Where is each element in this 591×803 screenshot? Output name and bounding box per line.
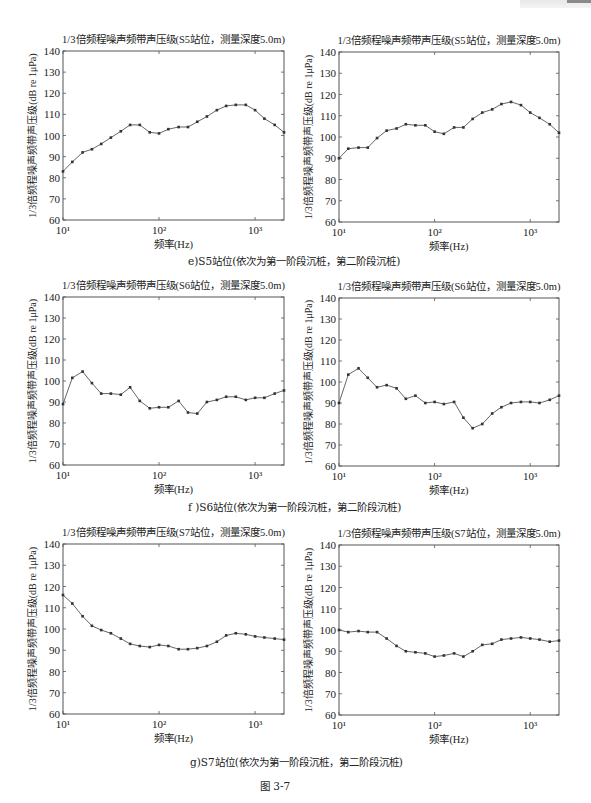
y-tick-label: 110 xyxy=(320,355,337,367)
plot-frame xyxy=(63,51,284,220)
data-point-marker xyxy=(491,412,494,415)
data-point-marker xyxy=(158,132,161,135)
y-tick-label: 140 xyxy=(44,538,61,550)
data-point-marker xyxy=(110,632,113,635)
data-point-marker xyxy=(206,115,209,118)
series-line xyxy=(339,102,559,158)
data-point-marker xyxy=(395,645,398,648)
data-point-marker xyxy=(100,629,103,632)
data-point-marker xyxy=(273,124,276,127)
data-point-marker xyxy=(91,625,94,628)
data-point-marker xyxy=(443,403,446,406)
data-point-marker xyxy=(471,427,474,430)
x-axis-label: 频率(Hz) xyxy=(429,240,469,253)
data-point-marker xyxy=(62,403,65,406)
data-point-marker xyxy=(548,640,551,643)
data-point-marker xyxy=(385,637,388,640)
y-tick-label: 80 xyxy=(325,667,337,679)
x-tick-label: 10¹ xyxy=(332,226,346,238)
chart-s6-stage1: 6070809010011012013014010¹10²10³1/3倍频程噪声… xyxy=(0,0,591,803)
series-line xyxy=(63,372,284,414)
data-point-marker xyxy=(81,370,84,373)
data-point-marker xyxy=(520,636,523,639)
data-point-marker xyxy=(129,643,132,646)
data-point-marker xyxy=(347,631,350,634)
x-tick-label: 10² xyxy=(427,470,442,482)
x-tick-label: 10¹ xyxy=(56,224,70,236)
series-line xyxy=(63,105,284,171)
x-tick-label: 10¹ xyxy=(332,470,346,482)
data-point-marker xyxy=(62,170,65,173)
y-axis-label: 1/3倍频程噪声频带声压级(dB re 1μPa) xyxy=(26,547,39,711)
y-axis-label: 1/3倍频程噪声频带声压级(dB re 1μPa) xyxy=(302,300,315,464)
data-point-marker xyxy=(500,638,503,641)
data-point-marker xyxy=(433,130,436,133)
x-tick-label: 10² xyxy=(152,224,167,236)
y-tick-label: 70 xyxy=(325,688,337,700)
data-point-marker xyxy=(148,407,151,410)
y-tick-label: 60 xyxy=(325,709,337,721)
data-point-marker xyxy=(395,127,398,130)
data-point-marker xyxy=(283,131,286,134)
y-tick-label: 120 xyxy=(320,89,337,101)
y-tick-label: 130 xyxy=(44,559,61,571)
data-point-marker xyxy=(510,101,513,104)
data-point-marker xyxy=(129,124,132,127)
data-point-marker xyxy=(225,634,228,637)
data-point-marker xyxy=(366,631,369,634)
chart-s5-stage2: 6070809010011012013014010¹10²10³1/3倍频程噪声… xyxy=(0,0,591,803)
data-point-marker xyxy=(244,104,247,107)
y-tick-label: 120 xyxy=(320,334,337,346)
y-tick-label: 120 xyxy=(320,582,337,594)
y-axis-label: 1/3倍频程噪声频带声压级(dB re 1μPa) xyxy=(26,53,39,217)
chart-title: 1/3倍频程噪声频带声压级(S7站位，测量深度5.0m) xyxy=(62,526,285,539)
data-point-marker xyxy=(196,120,199,123)
data-point-marker xyxy=(263,636,266,639)
y-tick-label: 130 xyxy=(44,66,61,78)
data-point-marker xyxy=(177,400,180,403)
data-point-marker xyxy=(538,402,541,405)
data-point-marker xyxy=(273,392,276,395)
data-point-marker xyxy=(120,393,123,396)
data-point-marker xyxy=(433,655,436,658)
data-point-marker xyxy=(414,651,417,654)
data-point-marker xyxy=(263,117,266,120)
data-point-marker xyxy=(235,632,238,635)
chart-s7-stage1: 6070809010011012013014010¹10²10³1/3倍频程噪声… xyxy=(0,0,591,803)
data-point-marker xyxy=(338,157,341,160)
y-tick-label: 60 xyxy=(49,708,61,720)
data-point-marker xyxy=(187,411,190,414)
data-point-marker xyxy=(357,630,360,633)
data-point-marker xyxy=(167,128,170,131)
x-tick-label: 10² xyxy=(427,226,442,238)
data-point-marker xyxy=(376,631,379,634)
data-point-marker xyxy=(529,401,532,404)
data-point-marker xyxy=(357,367,360,370)
y-tick-label: 60 xyxy=(325,460,337,472)
data-point-marker xyxy=(347,373,350,376)
y-tick-label: 80 xyxy=(49,666,61,678)
y-tick-label: 70 xyxy=(49,193,61,205)
x-axis-label: 频率(Hz) xyxy=(154,238,194,251)
data-point-marker xyxy=(206,645,209,648)
chart-svg: 6070809010011012013014010¹10²10³1/3倍频程噪声… xyxy=(0,0,591,803)
data-point-marker xyxy=(196,412,199,415)
data-point-marker xyxy=(244,633,247,636)
data-point-marker xyxy=(81,151,84,154)
plot-frame xyxy=(339,52,559,222)
y-tick-label: 130 xyxy=(320,560,337,572)
y-tick-label: 130 xyxy=(44,312,61,324)
data-point-marker xyxy=(167,645,170,648)
data-point-marker xyxy=(71,377,74,380)
data-point-marker xyxy=(235,395,238,398)
y-tick-label: 70 xyxy=(49,687,61,699)
page-corner-edge xyxy=(520,0,591,8)
data-point-marker xyxy=(510,402,513,405)
data-point-marker xyxy=(100,392,103,395)
data-point-marker xyxy=(254,397,257,400)
data-point-marker xyxy=(357,146,360,149)
chart-s5-stage1: 6070809010011012013014010¹10²10³1/3倍频程噪声… xyxy=(0,0,591,803)
x-axis-label: 频率(Hz) xyxy=(429,484,469,497)
data-point-marker xyxy=(110,136,113,139)
data-point-marker xyxy=(538,117,541,120)
